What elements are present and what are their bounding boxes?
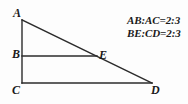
vertex-label-c: C — [12, 84, 20, 96]
vertex-label-d: D — [151, 84, 160, 96]
ratio-annotation-be-cd: BE:CD=2:3 — [127, 27, 187, 40]
vertex-label-a: A — [13, 7, 21, 19]
ratio-annotation-ab-ac: AB:AC=2:3 — [127, 14, 187, 27]
geometry-figure: A B C D E AB:AC=2:3 BE:CD=2:3 — [0, 0, 188, 104]
vertex-label-e: E — [99, 49, 107, 61]
vertex-label-b: B — [12, 48, 20, 60]
ratio-annotations: AB:AC=2:3 BE:CD=2:3 — [127, 14, 187, 39]
